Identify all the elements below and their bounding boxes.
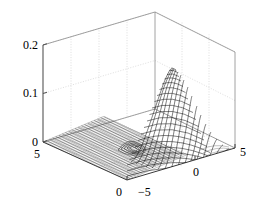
- axes-box-wireframe: [43, 12, 235, 148]
- mesh-surface: [43, 68, 235, 180]
- z-tick-label-0.2: 0.2: [23, 38, 38, 52]
- x-tick-label-minus5: −5: [138, 185, 151, 199]
- z-tick-label-0.1: 0.1: [23, 86, 38, 100]
- mesh-cols-flat: [43, 116, 188, 180]
- surface-plot-3d: 0.2 0.1 0 5 0 −5 0 5: [0, 0, 268, 209]
- y-tick-label-5: 5: [34, 147, 40, 161]
- z-axis-line: [43, 44, 47, 142]
- figure-canvas: 0.2 0.1 0 5 0 −5 0 5: [0, 0, 268, 209]
- mesh-rows-flat: [43, 116, 182, 180]
- x-tick-label-0: 0: [193, 165, 199, 179]
- x-tick-label-5: 5: [240, 145, 246, 159]
- y-tick-label-0: 0: [116, 185, 122, 199]
